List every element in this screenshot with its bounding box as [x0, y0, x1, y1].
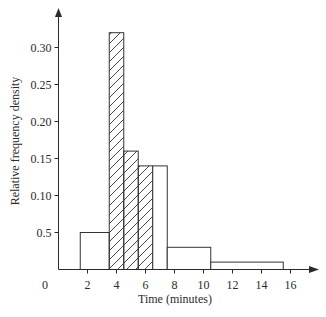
x-tick-label: 6	[143, 278, 149, 292]
x-ticks: 0246810121416	[42, 270, 297, 293]
x-tick-label: 12	[227, 278, 239, 292]
x-tick-label: 0	[42, 278, 48, 292]
y-tick-label: 0.5	[37, 226, 52, 240]
y-tick-label: 0.25	[31, 78, 52, 92]
histogram-bar-2	[124, 151, 139, 269]
x-axis-arrow-icon	[309, 266, 319, 273]
x-tick-label: 8	[172, 278, 178, 292]
histogram-bar-1	[109, 33, 124, 270]
histogram-bar-3	[138, 166, 153, 270]
y-axis-label: Relative frequency density	[8, 77, 22, 206]
y-tick-label: 0.15	[31, 152, 52, 166]
x-axis-label: Time (minutes)	[138, 292, 212, 306]
y-tick-label: 0.20	[31, 115, 52, 129]
histogram-bar-5	[167, 247, 211, 269]
x-tick-label: 10	[198, 278, 210, 292]
histogram-chart: 0246810121416 0.50.100.150.200.250.30 Ti…	[0, 0, 326, 317]
histogram-bar-4	[153, 166, 168, 270]
x-tick-label: 2	[85, 278, 91, 292]
histogram-bar-6	[211, 262, 284, 269]
bars-group	[80, 33, 283, 270]
histogram-bar-0	[80, 233, 109, 270]
y-axis-arrow-icon	[55, 8, 62, 17]
y-tick-label: 0.10	[31, 189, 52, 203]
x-tick-label: 16	[285, 278, 297, 292]
y-ticks: 0.50.100.150.200.250.30	[31, 41, 59, 240]
x-tick-label: 14	[256, 278, 268, 292]
x-tick-label: 4	[114, 278, 120, 292]
y-tick-label: 0.30	[31, 41, 52, 55]
